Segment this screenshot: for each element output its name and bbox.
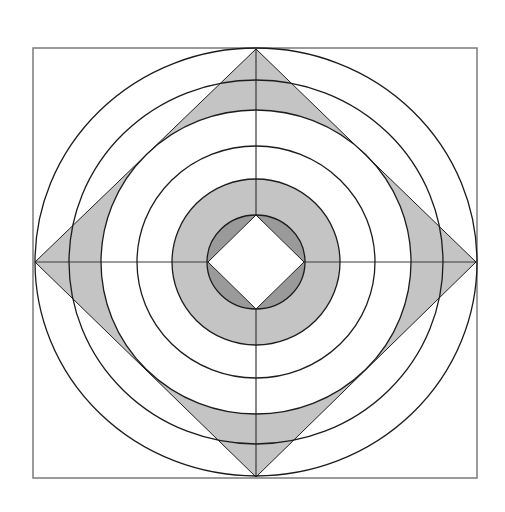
geometric-figure bbox=[0, 0, 505, 512]
concentric-rings-diamond-diagram bbox=[0, 0, 505, 512]
